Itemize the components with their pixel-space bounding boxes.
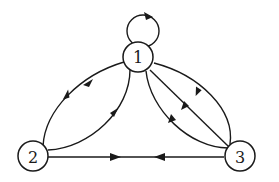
edge-3-to-1-inner	[146, 71, 228, 148]
node-1: 1	[123, 42, 153, 72]
edge-2-3-horizontal	[48, 153, 224, 161]
node-2: 2	[18, 141, 48, 171]
arrowhead-icon	[110, 108, 118, 117]
graph-diagram: 1 2 3	[0, 0, 279, 182]
arrowhead-icon	[144, 12, 153, 20]
arrowhead-icon	[110, 153, 121, 161]
node-3: 3	[225, 141, 255, 171]
arrowhead-icon	[61, 90, 69, 100]
node-3-label: 3	[235, 148, 245, 167]
node-2-label: 2	[28, 148, 38, 167]
node-1-label: 1	[133, 48, 143, 67]
arrowhead-icon	[154, 153, 165, 161]
edge-2-to-1	[43, 62, 124, 146]
edge-1-to-1-self-loop	[127, 12, 159, 47]
edge-3-to-1-straight	[150, 70, 228, 146]
edge-3-to-1-outer	[154, 63, 230, 144]
